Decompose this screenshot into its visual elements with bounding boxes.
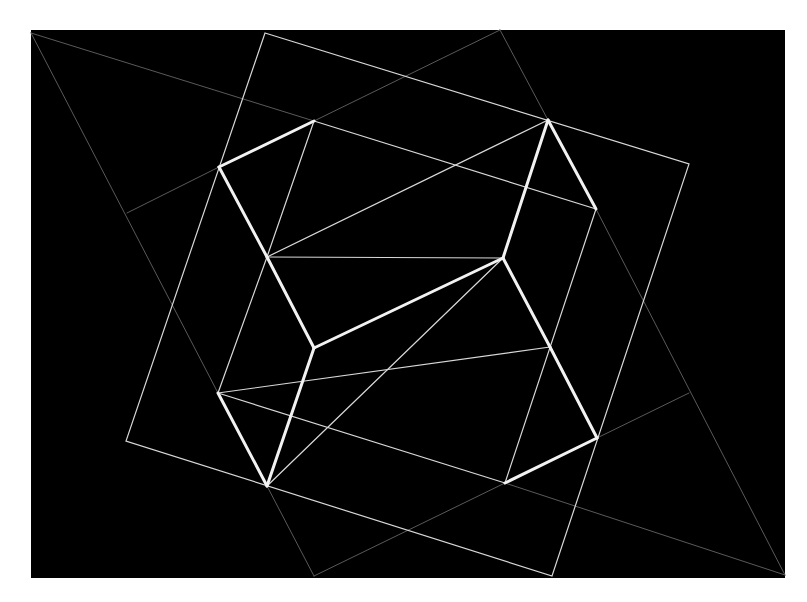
geometric-line-drawing xyxy=(0,0,807,602)
